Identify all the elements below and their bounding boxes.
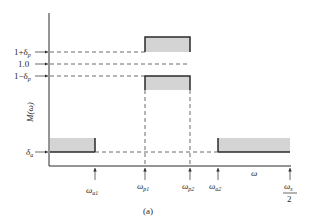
passband-upper-region <box>145 37 190 52</box>
x-axis-label: ω <box>251 168 257 178</box>
label-unity: 1.0 <box>18 59 30 69</box>
y-axis-label: M(ω) <box>25 102 35 123</box>
label-1-minus-delta-p: 1−δp <box>14 71 31 82</box>
x-tick-arrows <box>95 168 290 180</box>
right-stopband-region <box>218 138 290 152</box>
label-delta-a: δa <box>26 147 33 158</box>
figure-caption: (a) <box>143 206 153 216</box>
label-omega-a2: ωa2 <box>209 181 221 192</box>
bandpass-tolerance-diagram: 1+δp 1.0 1−δp δa M(ω) ωa1 ωp1 ωp2 ωa2 ω … <box>0 0 309 223</box>
label-omega-p1: ωp1 <box>137 181 149 192</box>
svg-text:ωs: ωs <box>284 181 293 192</box>
passband-lower-region <box>145 76 190 90</box>
svg-text:2: 2 <box>287 194 292 204</box>
left-stopband-region <box>50 138 95 152</box>
label-1-plus-delta-p: 1+δp <box>14 47 31 58</box>
y-tick-arrows <box>35 52 48 152</box>
label-omega-p2: ωp2 <box>182 181 194 192</box>
label-omega-a1: ωa1 <box>86 185 98 196</box>
label-omega-s-over-2: ωs 2 <box>283 181 297 204</box>
